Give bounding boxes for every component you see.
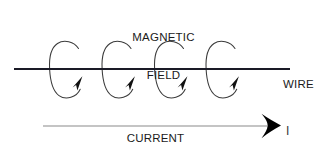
magnetic-field-title: MAGNETIC FIELD [0, 6, 327, 106]
title-line-1: MAGNETIC [0, 31, 327, 44]
title-line-2: FIELD [0, 69, 327, 82]
wire-label: WIRE [283, 79, 314, 91]
current-label: CURRENT [0, 133, 311, 145]
current-symbol-label: I [286, 126, 290, 138]
magnetic-field-diagram: MAGNETIC FIELD WIRE CURRENT I [0, 0, 327, 155]
